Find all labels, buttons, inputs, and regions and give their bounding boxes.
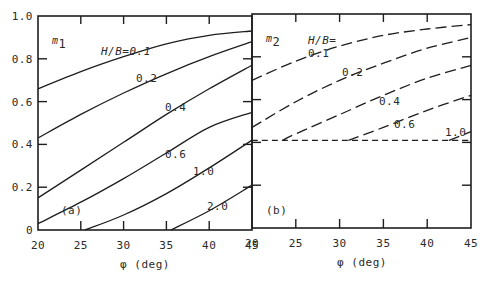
panel-b-curve-label-4: 1.0 <box>445 126 466 139</box>
panel-a-xtick-label: 30 <box>116 239 130 252</box>
panel-b-xtick-label: 35 <box>376 237 390 250</box>
panel-a-xtick-label: 40 <box>202 239 216 252</box>
panel-a-xtick-label: 20 <box>31 239 45 252</box>
panel-a-ylabel-sub: 1 <box>59 37 67 51</box>
panel-b-curve-label-2: 0.4 <box>379 95 400 108</box>
panel-b-series-2 <box>283 65 471 140</box>
panel-a-ytick-label: 0.6 <box>12 96 33 109</box>
panel-b-label: (b) <box>266 204 287 217</box>
panel-a-curve-label-5: 2.0 <box>207 200 228 213</box>
panel-b-legend-prefix: H/B= <box>307 34 337 47</box>
panel-b-ylabel-main: m <box>265 33 273 44</box>
panel-a-ytick-label: 0.2 <box>12 181 33 194</box>
panel-b-xtick-label: 20 <box>245 237 259 250</box>
figure: 20253035404500.20.40.60.81.0 20253035404… <box>0 0 488 281</box>
panel-a-series-2 <box>38 65 252 198</box>
panel-a-xlabel: φ (deg) <box>120 258 170 271</box>
panel-a-xtick-label: 25 <box>74 239 88 252</box>
panel-b-ylabel-sub: 2 <box>273 35 281 49</box>
panel-b-curves <box>252 25 471 141</box>
panel-a-curve-label-1: 0.2 <box>136 72 157 85</box>
panel-b-xtick-label: 45 <box>464 237 478 250</box>
panel-b-series-1 <box>252 38 471 128</box>
panel-b-xtick-label: 40 <box>420 237 434 250</box>
panel-a-ylabel-main: m <box>51 35 59 46</box>
panel-a-curve-label-0: H/B=0.1 <box>100 45 151 58</box>
panel-a-ylabel: m1 <box>51 35 66 51</box>
panel-a-curve-label-2: 0.4 <box>165 101 186 114</box>
panel-b-xlabel: φ (deg) <box>337 256 387 269</box>
panel-b-curve-label-3: 0.6 <box>394 118 415 131</box>
panel-a-ytick-label: 0.8 <box>12 53 33 66</box>
panel-b-xtick-label: 30 <box>332 237 346 250</box>
panel-b-ylabel: m2 <box>265 33 280 49</box>
panel-a-ytick-label: 0.4 <box>12 138 33 151</box>
panel-a-curve-label-4: 1.0 <box>193 165 214 178</box>
panel-b-frame <box>252 14 471 228</box>
panel-a-curve-label-3: 0.6 <box>165 148 186 161</box>
panel-b-curve-label-1: 0.2 <box>342 66 363 79</box>
panel-a-xtick-label: 35 <box>159 239 173 252</box>
panel-b-curve-label-0: 0.1 <box>308 47 329 60</box>
panel-a-label: (a) <box>61 204 82 217</box>
panel-a-ytick-label: 0 <box>26 224 33 237</box>
panel-b-xtick-label: 25 <box>289 237 303 250</box>
panel-a-curve-label-0-text: H/B=0.1 <box>100 45 151 58</box>
panel-a-ytick-label: 1.0 <box>12 10 33 23</box>
